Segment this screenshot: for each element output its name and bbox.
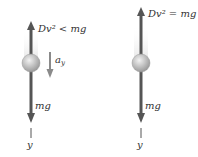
ball: [132, 54, 150, 72]
right-diagram: Dv² = mg mg y: [132, 7, 196, 150]
left-diagram: Dv² < mg ay mg y: [22, 21, 86, 150]
accel-label: ay: [55, 54, 66, 67]
drag-label: Dv² = mg: [147, 8, 196, 19]
weight-label: mg: [145, 100, 161, 111]
drag-label: Dv² < mg: [37, 23, 86, 34]
acceleration-arrow: [47, 52, 54, 78]
free-body-diagrams: Dv² < mg ay mg y Dv² = mg mg y: [0, 0, 198, 157]
axis-label: y: [26, 139, 33, 150]
axis-label: y: [136, 139, 143, 150]
weight-arrow: [137, 66, 145, 123]
ball: [22, 54, 40, 72]
weight-label: mg: [35, 100, 51, 111]
weight-arrow: [27, 66, 35, 123]
